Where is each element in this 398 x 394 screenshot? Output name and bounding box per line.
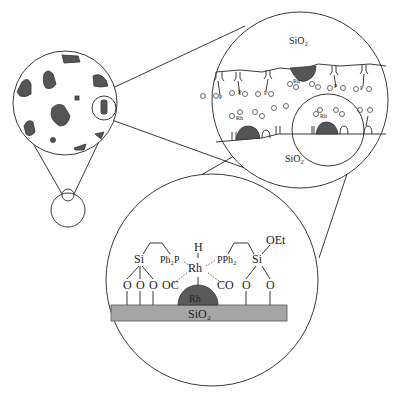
right-phosphine-label: PPh₂ [217,254,237,265]
rh-complex-label: Rh [320,113,327,119]
right-carbonyl-label: CO [217,278,234,292]
pore-detail: SiO₂ SiO₂ P P P P P Rh Rh Rh [201,12,389,188]
pellet-zoom-marker [62,189,74,201]
particle-overview [13,51,117,155]
left-carbonyl-label: OC [162,278,179,292]
rh-complex-label: Rh [236,115,243,121]
hydride-label: H [194,240,203,254]
pellet-circle [51,193,85,227]
oxygen-label: O [123,278,132,292]
rh-center-label: Rh [188,261,202,275]
substrate-label: SiO₂ [188,307,211,321]
particle-blob [51,138,56,143]
particle-label: Rh [189,293,201,304]
diagram: SiO₂ SiO₂ P P P P P Rh Rh Rh [0,0,398,394]
oxygen-label: O [242,278,251,292]
particle-blob [62,55,80,63]
rh-complex-label: Rh [293,78,300,84]
molecular-detail: SiO₂ Rh Si O O O Ph₂P H Rh OC CO PPh₂ Si… [106,174,318,386]
top-wall-label: SiO₂ [289,35,308,46]
oxygen-label: O [149,278,158,292]
particle-blob [101,100,107,114]
ethoxy-label: OEt [266,233,286,247]
oxygen-label: O [136,278,145,292]
particle-blob [24,121,35,136]
particle-blob [75,96,79,100]
oxygen-label: O [266,278,275,292]
left-phosphine-label: Ph₂P [160,254,180,265]
right-si-label: Si [252,252,263,266]
left-si-label: Si [134,252,145,266]
